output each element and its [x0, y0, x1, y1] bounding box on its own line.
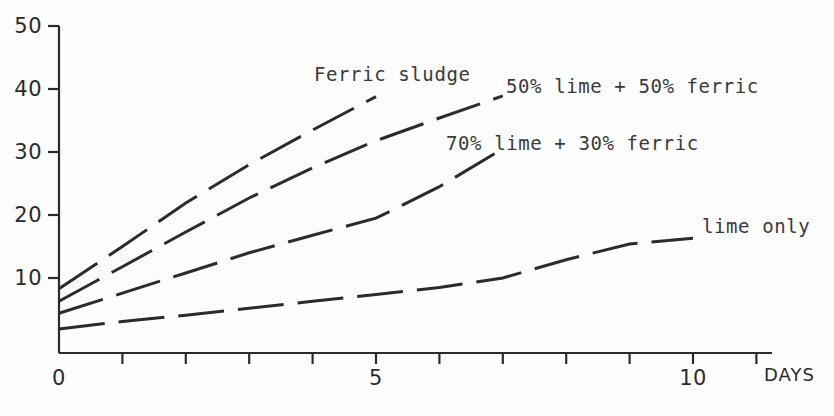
series-label-50-lime-50-ferric: 50% lime + 50% ferric: [506, 75, 759, 97]
series-line-1: [59, 96, 503, 301]
series-label-ferric-sludge: Ferric sludge: [314, 63, 471, 85]
x-tick-label-0: 0: [52, 366, 66, 390]
y-tick-label-40: 40: [4, 77, 42, 101]
series-label-70-lime-30-ferric: 70% lime + 30% ferric: [446, 132, 699, 154]
y-axis-ticks: [48, 26, 59, 278]
y-tick-label-30: 30: [4, 140, 42, 164]
x-tick-label-5: 5: [369, 366, 383, 390]
series-line-0: [59, 97, 376, 289]
x-tick-label-10: 10: [679, 366, 707, 390]
x-axis-title: DAYS: [764, 364, 815, 385]
series-label-lime-only: lime only: [702, 215, 810, 237]
y-tick-label-50: 50: [4, 14, 42, 38]
chart-container: 50 40 30 20 10 0 5 10 DAYS Ferric sludge…: [0, 0, 834, 416]
x-axis-ticks: [122, 353, 756, 364]
y-tick-label-20: 20: [4, 203, 42, 227]
chart-series-group: [59, 96, 693, 329]
y-tick-label-10: 10: [4, 266, 42, 290]
